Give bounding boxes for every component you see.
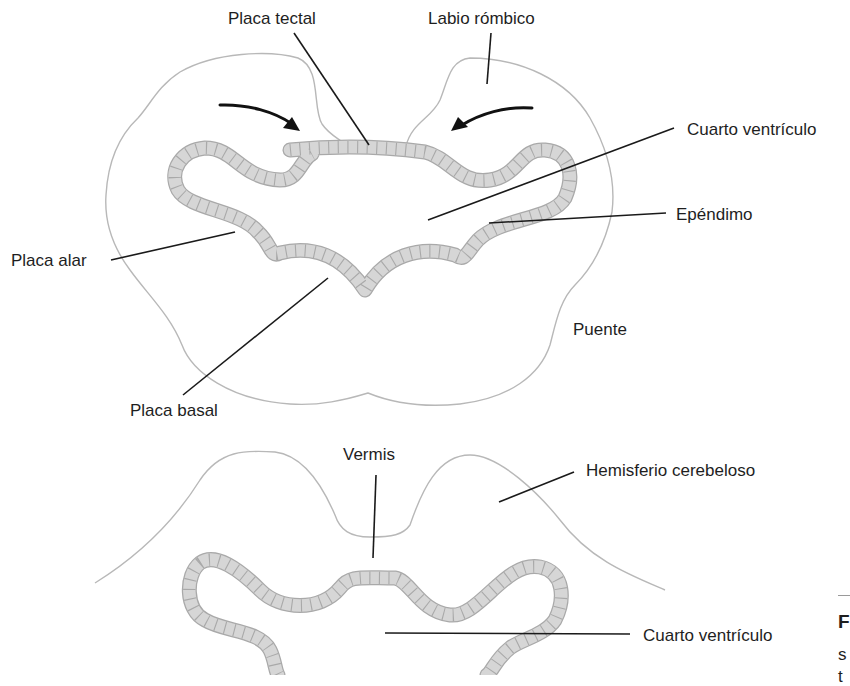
ependyma-upper [175,147,570,290]
label-ependimo: Epéndimo [676,206,753,223]
cerebellum-outline [95,451,665,590]
caption-divider [838,595,850,596]
leader-line-vermis [373,475,376,558]
label-hemisferio-cerebeloso: Hemisferio cerebeloso [586,462,755,479]
label-placa-basal: Placa basal [130,402,218,419]
pons-outline [106,54,613,406]
caption-figure-prefix: F [838,612,850,631]
arrow-right-icon [451,108,532,131]
leader-line-cuarto-ventriculo-lower [385,633,630,634]
label-placa-alar: Placa alar [11,252,87,269]
label-placa-tectal: Placa tectal [228,10,316,27]
label-cuarto-ventriculo-upper: Cuarto ventrículo [687,121,816,138]
leader-line-placa-basal [183,278,328,395]
label-cuarto-ventriculo-lower: Cuarto ventrículo [643,627,772,644]
label-labio-rombico: Labio rómbico [428,10,535,27]
label-puente: Puente [573,321,627,338]
caption-text-fragment: s [838,646,847,663]
leader-line-hemisferio-cerebeloso [499,472,574,502]
arrow-left-icon [220,105,300,131]
caption-text-fragment-2: t [838,668,843,685]
ependyma-lower [189,560,561,675]
label-vermis: Vermis [343,446,395,463]
leader-line-placa-tectal [294,33,369,145]
leader-line-placa-alar [111,232,235,260]
